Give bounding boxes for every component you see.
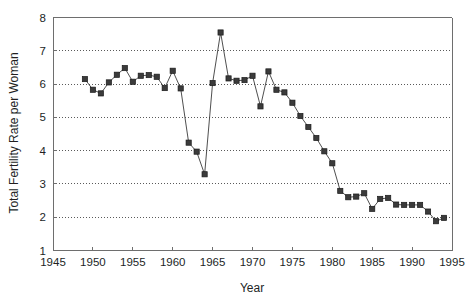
data-point-marker — [425, 209, 430, 214]
data-point-marker — [234, 78, 239, 83]
data-point-marker — [186, 140, 191, 145]
data-point-marker — [410, 202, 415, 207]
x-tick-label: 1985 — [359, 256, 385, 268]
plot-frame — [53, 18, 452, 251]
data-point-marker — [402, 202, 407, 207]
x-tick-label: 1995 — [439, 256, 465, 268]
x-tick-label: 1990 — [399, 256, 425, 268]
data-point-marker — [441, 215, 446, 220]
data-point-marker — [378, 196, 383, 201]
y-tick-label: 2 — [40, 211, 46, 223]
y-tick-label: 7 — [40, 45, 46, 57]
x-tick-label: 1955 — [120, 256, 146, 268]
x-tick-label: 1950 — [80, 256, 106, 268]
data-point-marker — [226, 76, 231, 81]
y-tick-label: 6 — [40, 78, 46, 90]
y-tick-label: 8 — [40, 12, 46, 24]
data-point-marker — [162, 85, 167, 90]
data-point-marker — [194, 149, 199, 154]
data-point-marker — [346, 195, 351, 200]
data-point-marker — [170, 68, 175, 73]
data-point-marker — [386, 195, 391, 200]
y-tick-label: 3 — [40, 178, 46, 190]
y-tick-label: 1 — [40, 245, 46, 257]
data-point-marker — [354, 194, 359, 199]
data-point-marker — [282, 90, 287, 95]
data-markers — [82, 30, 446, 224]
data-point-marker — [314, 135, 319, 140]
data-point-marker — [258, 104, 263, 109]
fertility-rate-line-chart: 1945195019551960196519701975198019851990… — [0, 0, 471, 304]
data-point-marker — [98, 91, 103, 96]
data-point-marker — [370, 206, 375, 211]
y-axis-ticks — [53, 18, 57, 251]
data-point-marker — [394, 202, 399, 207]
y-axis-title: Total Fertility Rate per Woman — [7, 52, 21, 213]
data-point-marker — [146, 72, 151, 77]
data-point-marker — [138, 73, 143, 78]
x-axis-title: Year — [240, 281, 264, 295]
data-point-marker — [122, 65, 127, 70]
data-line — [85, 32, 444, 221]
data-point-marker — [298, 113, 303, 118]
data-point-marker — [362, 191, 367, 196]
x-tick-label: 1970 — [240, 256, 266, 268]
data-point-marker — [322, 149, 327, 154]
data-point-marker — [338, 188, 343, 193]
data-point-marker — [202, 172, 207, 177]
y-tick-label: 5 — [40, 111, 46, 123]
data-point-marker — [82, 76, 87, 81]
x-axis-ticks — [53, 247, 452, 251]
data-point-marker — [417, 202, 422, 207]
data-point-marker — [306, 124, 311, 129]
data-point-marker — [90, 87, 95, 92]
x-tick-labels: 1945195019551960196519701975198019851990… — [40, 256, 465, 268]
x-tick-label: 1965 — [200, 256, 226, 268]
x-tick-label: 1945 — [40, 256, 66, 268]
x-tick-label: 1975 — [280, 256, 306, 268]
data-point-marker — [114, 72, 119, 77]
chart-canvas: 1945195019551960196519701975198019851990… — [0, 0, 471, 304]
data-point-marker — [274, 87, 279, 92]
x-tick-label: 1960 — [160, 256, 186, 268]
y-tick-labels: 12345678 — [40, 12, 47, 257]
data-point-marker — [242, 77, 247, 82]
data-point-marker — [154, 74, 159, 79]
x-tick-label: 1980 — [320, 256, 346, 268]
data-point-marker — [250, 73, 255, 78]
data-point-marker — [290, 100, 295, 105]
data-point-marker — [218, 30, 223, 35]
data-point-marker — [266, 69, 271, 74]
data-point-marker — [130, 79, 135, 84]
y-tick-label: 4 — [40, 145, 47, 157]
data-point-marker — [210, 80, 215, 85]
data-point-marker — [178, 86, 183, 91]
data-point-marker — [330, 161, 335, 166]
data-point-marker — [433, 219, 438, 224]
data-point-marker — [106, 80, 111, 85]
